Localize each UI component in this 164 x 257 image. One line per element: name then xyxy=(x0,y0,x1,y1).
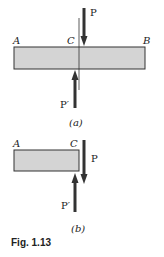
force-p-prime-arrow xyxy=(72,173,79,212)
point-a-label: A xyxy=(12,35,20,46)
force-p-arrow xyxy=(81,8,88,46)
force-p-prime-label: P′ xyxy=(61,200,71,211)
point-b-label: B xyxy=(142,35,150,46)
force-p-label: P xyxy=(91,153,98,164)
force-p-arrow xyxy=(81,140,88,184)
point-a-label: A xyxy=(12,138,20,149)
point-c-label: C xyxy=(70,138,78,149)
force-p-prime-arrow xyxy=(72,70,79,108)
panel-a: A C B P P′ (a) xyxy=(12,7,150,128)
bar-ac xyxy=(14,150,79,171)
panel-a-label: (a) xyxy=(69,117,83,128)
point-c-label: C xyxy=(67,35,75,46)
force-p-label: P xyxy=(90,7,97,18)
figure-caption: Fig. 1.13 xyxy=(11,237,51,248)
bar-ab xyxy=(14,47,145,69)
panel-b-label: (b) xyxy=(71,223,85,234)
panel-b: A C P P′ (b) xyxy=(12,138,98,234)
force-p-prime-label: P′ xyxy=(60,99,70,110)
figure-canvas: A C B P P′ (a) A C P P′ (b) Fig. 1.13 xyxy=(0,0,164,257)
